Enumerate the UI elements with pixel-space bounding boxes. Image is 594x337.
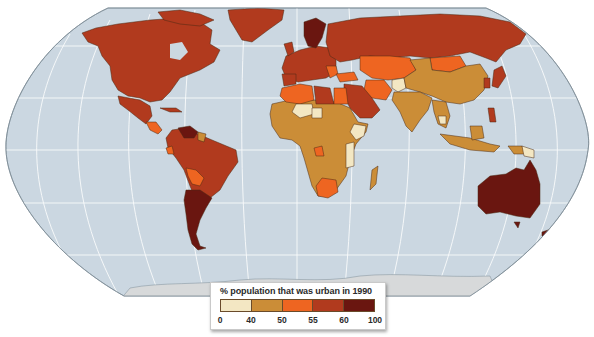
legend-tick: 0 bbox=[218, 315, 223, 325]
legend-tick: 100 bbox=[368, 315, 382, 325]
legend-swatch-0-40 bbox=[221, 300, 252, 311]
legend: % population that was urban in 1990 0 40… bbox=[210, 282, 386, 330]
region-russia bbox=[326, 14, 526, 62]
region-iberia bbox=[282, 74, 296, 86]
region-sahel-niger bbox=[312, 108, 322, 118]
region-egypt bbox=[334, 88, 348, 104]
legend-swatch-40-50 bbox=[252, 300, 283, 311]
legend-tick: 50 bbox=[277, 315, 286, 325]
region-congo bbox=[314, 146, 324, 156]
region-turkey bbox=[336, 72, 358, 82]
region-borneo bbox=[470, 126, 484, 140]
legend-ticks: 0 40 50 55 60 100 bbox=[220, 315, 375, 327]
legend-tick: 40 bbox=[246, 315, 255, 325]
world-map: % population that was urban in 1990 0 40… bbox=[0, 0, 594, 337]
legend-swatch-55-60 bbox=[313, 300, 344, 311]
region-east-africa bbox=[346, 142, 354, 168]
legend-swatch-50-55 bbox=[283, 300, 314, 311]
legend-title: % population that was urban in 1990 bbox=[220, 286, 372, 296]
legend-color-bar bbox=[220, 299, 375, 312]
legend-swatch-60-100 bbox=[344, 300, 374, 311]
legend-tick: 60 bbox=[339, 315, 348, 325]
region-korea bbox=[484, 78, 490, 88]
legend-tick: 55 bbox=[308, 315, 317, 325]
